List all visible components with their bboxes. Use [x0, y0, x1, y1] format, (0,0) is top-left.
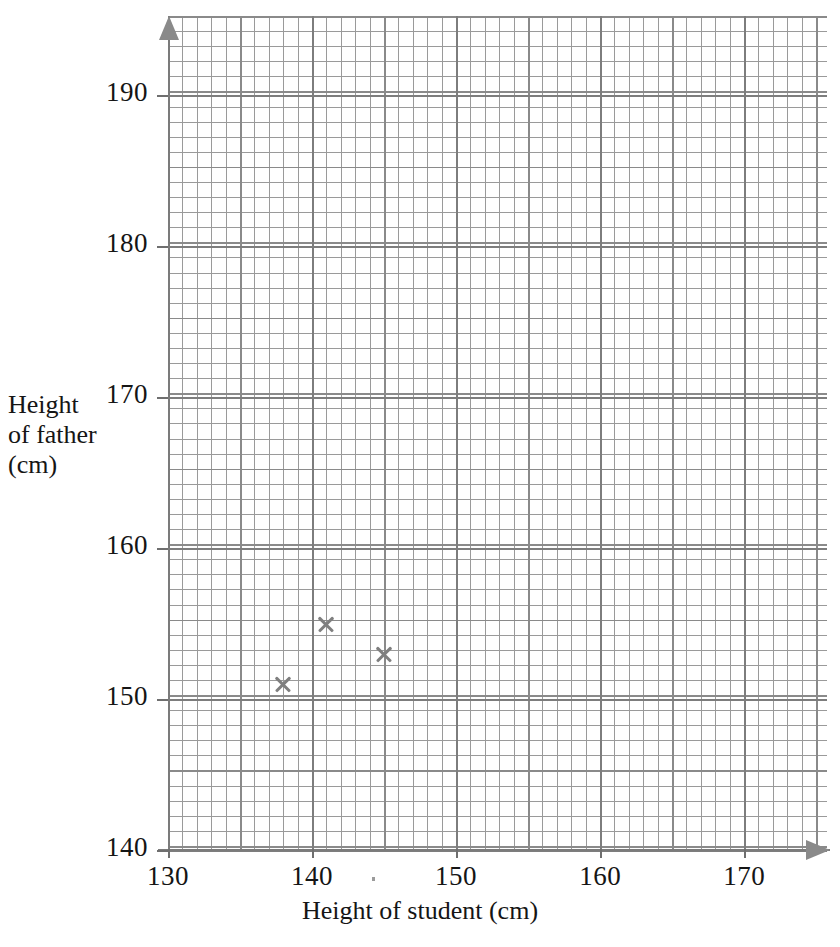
y-axis-tick-label: 150 — [58, 681, 148, 712]
major-gridline-horizontal — [168, 699, 827, 701]
major-gridline-horizontal — [168, 246, 827, 248]
data-point-marker — [316, 614, 336, 634]
y-axis-tick — [157, 397, 168, 399]
x-axis-tick — [168, 849, 170, 858]
major-gridline-vertical — [312, 16, 314, 850]
y-axis-title-line-2: of father — [8, 420, 138, 450]
x-axis-tick — [312, 849, 314, 858]
x-axis-tick-label: 140 — [272, 861, 352, 892]
y-axis-tick — [157, 699, 168, 701]
print-speck-artifact — [372, 877, 375, 881]
plot-area — [168, 16, 827, 850]
y-axis-title: Height of father (cm) — [8, 390, 138, 480]
y-axis-title-line-1: Height — [8, 390, 138, 420]
data-point-marker — [374, 644, 394, 664]
scatter-plot-figure: 130140150160170140150160170180190 Height… — [0, 0, 840, 947]
x-axis-tick — [456, 849, 458, 858]
major-gridline-vertical — [744, 16, 746, 850]
y-axis-tick — [157, 246, 168, 248]
x-axis-tick-label: 160 — [560, 861, 640, 892]
y-axis-tick — [157, 850, 168, 852]
major-gridline-horizontal — [168, 548, 827, 550]
y-axis-line — [168, 18, 170, 851]
major-gridline-horizontal — [168, 397, 827, 399]
x-axis-tick-label: 150 — [416, 861, 496, 892]
y-axis-title-line-3: (cm) — [8, 450, 138, 480]
x-axis-title: Height of student (cm) — [0, 896, 840, 926]
x-axis-tick — [600, 849, 602, 858]
y-axis-tick-label: 160 — [58, 530, 148, 561]
y-axis-tick-label: 190 — [58, 77, 148, 108]
x-axis-tick-label: 170 — [704, 861, 784, 892]
y-axis-tick — [157, 95, 168, 97]
x-axis-tick-label: 130 — [128, 861, 208, 892]
major-gridline-vertical — [600, 16, 602, 850]
major-gridline-horizontal — [168, 95, 827, 97]
y-axis-arrow-icon — [159, 16, 179, 40]
major-gridlines — [168, 16, 827, 850]
major-gridline-vertical — [456, 16, 458, 850]
x-axis-line — [158, 849, 830, 851]
y-axis-tick-label: 180 — [58, 228, 148, 259]
x-axis-arrow-icon — [806, 840, 830, 860]
data-point-marker — [273, 674, 293, 694]
x-axis-tick — [744, 849, 746, 858]
y-axis-tick-label: 140 — [58, 832, 148, 863]
y-axis-tick — [157, 548, 168, 550]
